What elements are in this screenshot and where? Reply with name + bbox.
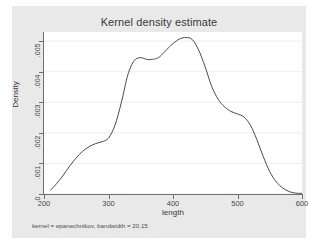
gridlines (44, 41, 302, 194)
y-tick-label: .001 (18, 158, 38, 168)
y-tick-label-text: .004 (35, 74, 42, 88)
chart-title: Kernel density estimate (12, 16, 306, 28)
y-tick-label-text: .002 (35, 135, 42, 149)
x-tick-label: 600 (287, 199, 316, 208)
y-tick-label: .005 (18, 36, 38, 46)
y-axis-title: Density (11, 81, 20, 108)
y-tick-label: .004 (18, 67, 38, 77)
x-tick-label: 200 (29, 199, 59, 208)
y-axis-line (43, 32, 44, 195)
y-tick-label: .003 (18, 97, 38, 107)
graph-window: Kernel density estimate 0.001.002.003.00… (0, 0, 316, 250)
y-tick-mark (39, 41, 44, 42)
y-tick-label-text: .003 (35, 105, 42, 119)
y-tick-mark (39, 133, 44, 134)
x-axis-title: length (44, 208, 302, 217)
graph-canvas: Kernel density estimate 0.001.002.003.00… (12, 6, 306, 238)
x-tick-label: 300 (94, 199, 124, 208)
x-tick-label: 400 (158, 199, 188, 208)
y-tick-label: 0 (18, 189, 38, 199)
chart-note: kernel = epanechnikov, bandwidth = 20.15 (32, 222, 148, 229)
y-tick-mark (39, 72, 44, 73)
y-tick-label-text: .001 (35, 166, 42, 180)
y-tick-label: .002 (18, 128, 38, 138)
plot-area (44, 32, 302, 194)
density-curve-svg (44, 32, 302, 194)
y-tick-label-text: .005 (35, 44, 42, 58)
x-tick-label: 500 (223, 199, 253, 208)
density-curve (50, 37, 302, 193)
